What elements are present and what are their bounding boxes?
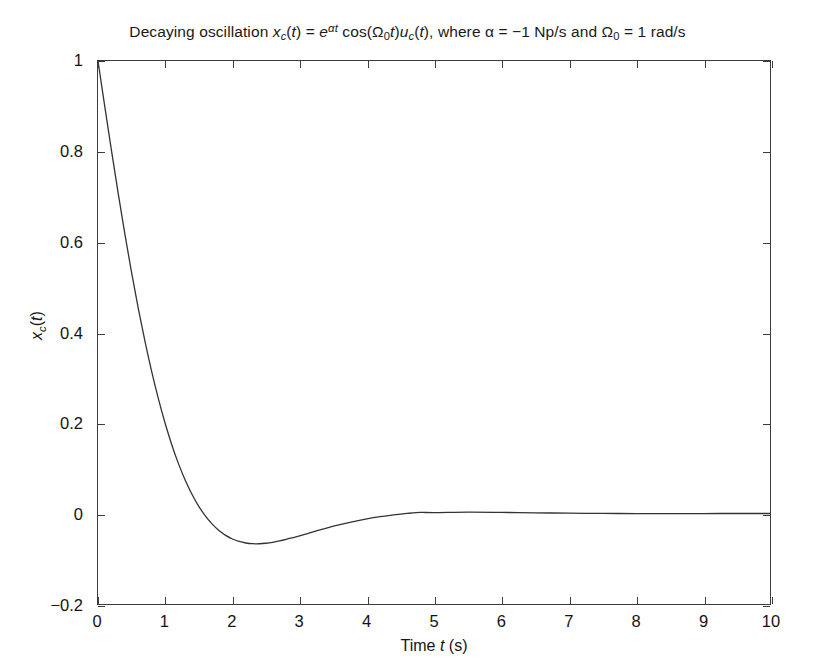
x-tick-1 — [165, 61, 166, 68]
x-tick-3 — [300, 61, 301, 68]
ylabel-close: ) — [28, 311, 45, 316]
x-tick-label-2: 2 — [227, 612, 236, 631]
y-tick-−0.2 — [763, 606, 770, 607]
y-tick-0.6 — [98, 243, 105, 244]
x-tick-0 — [98, 597, 99, 604]
title-alpha-symbol: α — [485, 23, 494, 40]
x-tick-label-0: 0 — [92, 612, 101, 631]
x-tick-10 — [772, 597, 773, 604]
y-tick-1 — [763, 61, 770, 62]
title-lead: Decaying oscillation — [129, 23, 272, 40]
y-tick-0 — [98, 515, 105, 516]
x-tick-6 — [502, 597, 503, 604]
title-omega2-base: Ω — [602, 23, 614, 40]
y-tick-0.4 — [98, 334, 105, 335]
x-tick-label-6: 6 — [497, 612, 506, 631]
x-tick-10 — [772, 61, 773, 68]
title-x-base: x — [273, 23, 281, 40]
x-tick-1 — [165, 597, 166, 604]
y-tick-0 — [763, 515, 770, 516]
x-tick-6 — [502, 61, 503, 68]
y-axis-label: xc(t) — [28, 271, 47, 381]
title-cos: cos( — [338, 23, 372, 40]
chart-title: Decaying oscillation xc(t) = eαt cos(Ω0t… — [0, 22, 815, 42]
xlabel-unit: (s) — [444, 637, 467, 654]
title-e-sup-alpha: α — [328, 22, 335, 34]
y-tick-0.8 — [763, 152, 770, 153]
y-tick-0.6 — [763, 243, 770, 244]
x-tick-label-1: 1 — [160, 612, 169, 631]
y-tick-0.8 — [98, 152, 105, 153]
y-tick-label-0: 0 — [0, 505, 83, 524]
y-tick-−0.2 — [98, 606, 105, 607]
x-tick-7 — [570, 597, 571, 604]
x-tick-5 — [435, 597, 436, 604]
x-tick-label-9: 9 — [699, 612, 708, 631]
x-tick-8 — [637, 61, 638, 68]
x-tick-9 — [705, 597, 706, 604]
x-tick-label-4: 4 — [362, 612, 371, 631]
data-series-curve — [98, 61, 770, 604]
title-omega2-value: = 1 rad/s — [620, 23, 686, 40]
x-tick-5 — [435, 61, 436, 68]
x-tick-label-10: 10 — [762, 612, 780, 631]
x-tick-4 — [368, 597, 369, 604]
y-tick-1 — [98, 61, 105, 62]
y-tick-label-−0.2: −0.2 — [0, 596, 83, 615]
decaying-oscillation-line — [98, 61, 770, 544]
y-tick-label-0.8: 0.8 — [0, 141, 83, 160]
x-tick-3 — [300, 597, 301, 604]
y-tick-label-0.2: 0.2 — [0, 414, 83, 433]
title-alpha-value: = −1 Np/s and — [494, 23, 602, 40]
ylabel-var: t — [28, 317, 45, 321]
x-tick-label-8: 8 — [632, 612, 641, 631]
ylabel-open: ( — [28, 321, 45, 326]
ylabel-base: x — [28, 332, 45, 340]
title-u-close: ), — [424, 23, 438, 40]
x-tick-label-5: 5 — [429, 612, 438, 631]
y-tick-0.4 — [763, 334, 770, 335]
title-omega-base: Ω — [372, 23, 384, 40]
xlabel-lead: Time — [401, 637, 440, 654]
plot-area — [97, 60, 771, 605]
figure-canvas: Decaying oscillation xc(t) = eαt cos(Ω0t… — [0, 0, 815, 671]
x-tick-2 — [233, 597, 234, 604]
x-tick-2 — [233, 61, 234, 68]
x-tick-8 — [637, 597, 638, 604]
x-axis-label: Time t (s) — [97, 637, 771, 655]
y-tick-label-0.6: 0.6 — [0, 232, 83, 251]
y-tick-label-1: 1 — [0, 51, 83, 70]
x-tick-9 — [705, 61, 706, 68]
x-tick-7 — [570, 61, 571, 68]
ylabel-sub: c — [36, 326, 48, 332]
title-x-close: ) = — [296, 23, 319, 40]
y-tick-0.2 — [98, 424, 105, 425]
x-tick-label-7: 7 — [564, 612, 573, 631]
title-e-base: e — [319, 23, 328, 40]
x-tick-label-3: 3 — [295, 612, 304, 631]
title-where: where — [438, 23, 485, 40]
y-tick-0.2 — [763, 424, 770, 425]
x-tick-4 — [368, 61, 369, 68]
